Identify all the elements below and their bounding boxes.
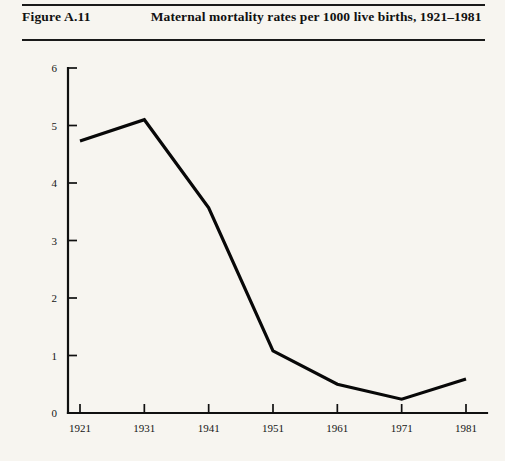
x-tick-label: 1951 xyxy=(262,422,284,434)
x-tick-label: 1921 xyxy=(69,422,91,434)
header-rule-bottom xyxy=(22,39,485,41)
y-tick-label: 4 xyxy=(52,177,58,189)
x-tick-label: 1971 xyxy=(391,422,413,434)
y-tick-label: 1 xyxy=(52,350,58,362)
figure-number: Figure A.11 xyxy=(22,9,91,25)
figure-header: Figure A.11 Maternal mortality rates per… xyxy=(22,4,485,41)
x-tick-label: 1961 xyxy=(326,422,348,434)
y-tick-label: 6 xyxy=(52,62,58,74)
x-tick-label: 1941 xyxy=(198,422,220,434)
x-tick-label: 1931 xyxy=(133,422,155,434)
y-tick-label: 2 xyxy=(52,292,58,304)
data-series-line xyxy=(80,120,466,399)
x-axis: 1921193119411951196119711981 xyxy=(68,404,487,434)
x-tick-label: 1981 xyxy=(455,422,477,434)
y-axis: 0123456 xyxy=(52,62,78,419)
header-row: Figure A.11 Maternal mortality rates per… xyxy=(22,6,485,39)
y-tick-label: 5 xyxy=(52,120,58,132)
line-chart: 0123456 1921193119411951196119711981 xyxy=(0,45,505,461)
y-tick-label: 0 xyxy=(52,407,58,419)
y-tick-label: 3 xyxy=(52,235,58,247)
figure-title: Maternal mortality rates per 1000 live b… xyxy=(151,9,482,25)
chart-plot-area: 0123456 1921193119411951196119711981 xyxy=(0,45,505,461)
